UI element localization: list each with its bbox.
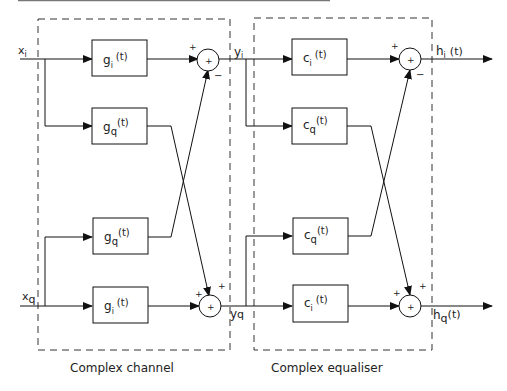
- equaliser-block-title: Complex equaliser: [271, 361, 383, 375]
- hi-output-label: hi(t): [436, 44, 463, 60]
- summer-symbol: +: [205, 56, 213, 66]
- sign-plus: +: [195, 289, 203, 299]
- summer-symbol: +: [207, 302, 215, 312]
- sign-plus: +: [393, 288, 401, 298]
- input-xq-label: xq: [22, 290, 36, 306]
- equaliser-filter-cq-top: [292, 108, 347, 144]
- equaliser-filter-cq-bottom: [293, 218, 348, 254]
- channel-block-title: Complex channel: [70, 361, 174, 375]
- sign-plus: +: [419, 281, 427, 291]
- summer-symbol: +: [407, 55, 415, 65]
- input-xi-label: xi: [18, 44, 27, 59]
- sign-plus: +: [189, 42, 197, 52]
- yi-label: yi: [234, 45, 243, 60]
- sign-minus: −: [416, 69, 424, 80]
- sign-minus: −: [214, 70, 222, 81]
- hq-output-label: hq(t): [433, 308, 461, 325]
- yq-label: yq: [230, 307, 244, 321]
- sign-plus: +: [218, 281, 226, 291]
- sign-plus: +: [391, 41, 399, 51]
- summer-symbol: +: [407, 302, 415, 312]
- block-diagram: gi(t) gq(t) gq(t) gi(t) ci(t) cq(t) cq(t…: [0, 0, 507, 391]
